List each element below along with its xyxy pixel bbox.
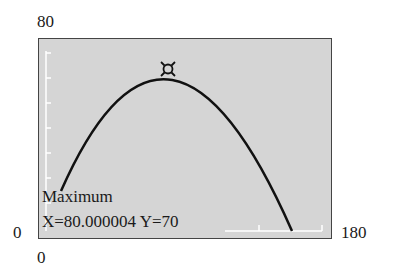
xmax-label: 180 — [341, 224, 367, 241]
ymin-label: 0 — [13, 224, 22, 241]
readout-title: Maximum — [42, 188, 113, 205]
xmin-label: 0 — [37, 249, 46, 266]
x-axis — [225, 225, 322, 231]
calculator-graph-screen: Maximum X=80.000004 Y=70 — [38, 38, 332, 239]
readout-values: X=80.000004 Y=70 — [42, 213, 179, 230]
curve — [61, 79, 292, 231]
graph-plot — [39, 39, 331, 238]
maximum-marker-icon — [161, 62, 175, 76]
ymax-label: 80 — [37, 13, 54, 30]
